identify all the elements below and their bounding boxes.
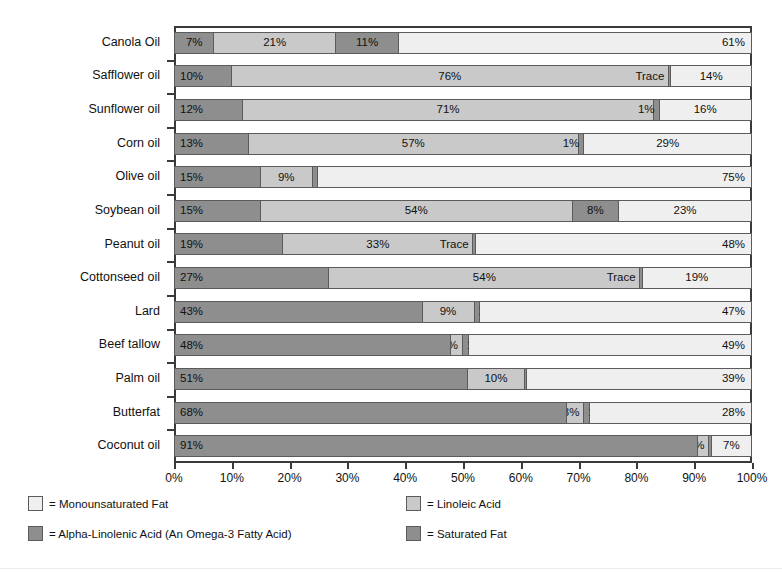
segment-value-label: 10% [180, 71, 203, 83]
stacked-bar: 68%3%1%28% [174, 402, 752, 424]
category-label: Peanut oil [0, 237, 160, 251]
bar-segment-alpha-linolenic: 11% [336, 32, 400, 54]
category-label: Beef tallow [0, 337, 160, 351]
category-label: Sunflower oil [0, 102, 160, 116]
segment-value-label: 39% [722, 373, 745, 385]
bar-segment-monounsaturated: 23% [619, 200, 752, 222]
x-axis-tick-label: 50% [451, 471, 475, 485]
segment-value-label: 76% [232, 71, 669, 83]
bar-segment-linoleic: 9% [261, 166, 313, 188]
bar-row: 13%57%1%29% [174, 127, 752, 161]
bar-row: 15%9%1%75% [174, 160, 752, 194]
segment-value-label: 8% [573, 205, 618, 217]
segment-value-label: 68% [180, 407, 203, 419]
bar-segment-monounsaturated: 28% [590, 402, 752, 424]
bar-segment-monounsaturated: 19% [643, 267, 752, 289]
segment-value-label: 9% [423, 306, 474, 318]
x-axis-tick-label: 20% [278, 471, 302, 485]
x-axis-tick [347, 463, 349, 469]
x-axis-tick [463, 463, 465, 469]
segment-value-label: 47% [722, 306, 745, 318]
segment-value-label: 71% [243, 104, 652, 116]
x-axis-tick [636, 463, 638, 469]
stacked-bar: 15%54%8%23% [174, 200, 752, 222]
bar-segment-linoleic: 71% [243, 99, 653, 121]
x-axis-tick-label: 40% [393, 471, 417, 485]
bar-segment-saturated: 91% [174, 435, 698, 457]
segment-value-label: 29% [584, 138, 751, 150]
segment-value-label: 75% [722, 172, 745, 184]
segment-value-label: 54% [329, 272, 639, 284]
bar-segment-linoleic: 54% [329, 267, 640, 289]
category-label: Safflower oil [0, 68, 160, 82]
segment-value-label: 7% [712, 440, 751, 452]
segment-value-label: 3% [567, 407, 579, 419]
chart-legend: = Monounsaturated Fat= Linoleic Acid= Al… [28, 496, 768, 552]
stacked-bar: 13%57%1%29% [174, 133, 752, 155]
bar-row: 27%54%Trace19% [174, 261, 752, 295]
segment-value-label: 57% [249, 138, 577, 150]
stacked-bar: 91%2%7% [174, 435, 752, 457]
stacked-bar: 19%33%Trace48% [174, 233, 752, 255]
x-axis-tick [174, 463, 176, 469]
legend-label: = Linoleic Acid [427, 498, 501, 510]
bar-segment-saturated: 13% [174, 133, 249, 155]
segment-value-label: 43% [180, 306, 203, 318]
bar-rows-container: 7%21%11%61%10%76%Trace14%12%71%1%16%13%5… [174, 26, 752, 463]
segment-value-label: 61% [722, 37, 745, 49]
bar-segment-monounsaturated: 29% [584, 133, 752, 155]
legend-color-swatch [28, 526, 43, 541]
segment-value-label: 14% [671, 71, 751, 83]
bar-row: 19%33%Trace48% [174, 228, 752, 262]
y-axis-tick [167, 362, 175, 364]
stacked-bar: 48%2%1%49% [174, 334, 752, 356]
category-label: Corn oil [0, 136, 160, 150]
segment-value-label: 7% [175, 37, 213, 49]
segment-value-label: 54% [261, 205, 572, 217]
category-label: Coconut oil [0, 438, 160, 452]
legend-color-swatch [28, 496, 43, 511]
segment-value-label: 12% [180, 104, 203, 116]
bar-row: 7%21%11%61% [174, 26, 752, 60]
stacked-bar: 7%21%11%61% [174, 32, 752, 54]
bar-segment-linoleic: 10% [468, 368, 526, 390]
x-axis-tick-label: 60% [509, 471, 533, 485]
x-axis-tick [232, 463, 234, 469]
category-label: Soybean oil [0, 203, 160, 217]
x-axis: 0%10%20%30%40%50%60%70%80%90%100% [174, 463, 752, 489]
bar-row: 91%2%7% [174, 429, 752, 463]
segment-value-label: Trace [635, 71, 664, 83]
bar-row: 51%10%Trace39% [174, 362, 752, 396]
bar-row: 43%9%1%47% [174, 295, 752, 329]
x-axis-tick [521, 463, 523, 469]
y-axis-tick [167, 396, 175, 398]
x-axis-tick [405, 463, 407, 469]
segment-value-label: 28% [722, 407, 745, 419]
bar-segment-saturated: 15% [174, 200, 261, 222]
segment-value-label: 23% [619, 205, 751, 217]
segment-value-label: 15% [180, 205, 203, 217]
x-axis-tick-label: 70% [567, 471, 591, 485]
y-axis-tick [167, 160, 175, 162]
bar-segment-monounsaturated: 16% [660, 99, 752, 121]
bar-segment-monounsaturated: 49% [469, 334, 752, 356]
stacked-bar-chart: Dietary Fat Canola OilSafflower oilSunfl… [0, 0, 782, 579]
segment-value-label: 51% [180, 373, 203, 385]
segment-value-label: Trace [607, 272, 636, 284]
y-axis-tick [167, 429, 175, 431]
x-axis-tick-label: 0% [165, 471, 182, 485]
bar-segment-linoleic: 57% [249, 133, 578, 155]
segment-value-label: 15% [180, 172, 203, 184]
stacked-bar: 27%54%Trace19% [174, 267, 752, 289]
segment-value-label: 16% [660, 104, 751, 116]
x-axis-tick-label: 30% [335, 471, 359, 485]
segment-value-label: 13% [180, 138, 203, 150]
segment-value-label: 1% [638, 104, 655, 116]
bar-segment-linoleic: 54% [261, 200, 573, 222]
bar-row: 12%71%1%16% [174, 93, 752, 127]
bar-segment-monounsaturated: 47% [480, 301, 752, 323]
category-label: Olive oil [0, 169, 160, 183]
bar-segment-saturated: 51% [174, 368, 468, 390]
bar-segment-monounsaturated: 61% [399, 32, 752, 54]
segment-value-label: 2% [698, 440, 705, 452]
